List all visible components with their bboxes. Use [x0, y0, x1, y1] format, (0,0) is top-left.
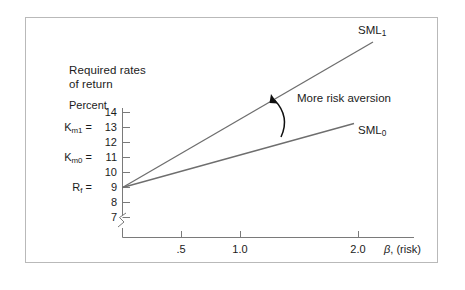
y-tick-label-14: 14 [95, 106, 117, 119]
sml0-label-subscript: 0 [382, 129, 387, 138]
sml0-label: SML0 [358, 124, 386, 138]
x-tick-label-0-5: .5 [166, 243, 196, 256]
chart-heading-line1: Required rates [69, 64, 146, 78]
sml0-label-base: SML [358, 124, 382, 136]
sml1-label-base: SML [358, 24, 382, 36]
sml1-line [123, 42, 374, 188]
km0-label: Km0 = [30, 151, 92, 164]
km0-symbol: K [64, 151, 71, 163]
chart-heading-line2: of return [69, 78, 113, 92]
figure-container: Required rates of return Percent 14 13 1… [0, 0, 465, 290]
rf-subscript: f [80, 186, 82, 195]
sml1-label: SML1 [358, 24, 386, 38]
risk-aversion-arrow [275, 100, 285, 137]
km0-subscript: m0 [72, 156, 83, 165]
y-tick-label-9: 9 [95, 181, 117, 194]
km1-equals: = [83, 121, 92, 133]
y-tick-label-12: 12 [95, 136, 117, 149]
y-tick-label-13: 13 [95, 121, 117, 134]
x-axis-label: β, (risk) [384, 243, 421, 256]
km1-subscript: m1 [72, 126, 83, 135]
km0-equals: = [83, 151, 92, 163]
km1-label: Km1 = [30, 121, 92, 134]
rf-label: Rf = [30, 181, 92, 194]
x-tick-marks [182, 231, 359, 238]
y-tick-label-11: 11 [95, 151, 117, 164]
y-tick-label-7: 7 [95, 211, 117, 224]
x-axis-label-rest: , (risk) [390, 243, 421, 255]
sml1-label-subscript: 1 [382, 29, 387, 38]
y-tick-marks [123, 113, 131, 218]
km1-symbol: K [64, 121, 71, 133]
sml0-line [123, 124, 355, 188]
x-tick-label-1-0: 1.0 [225, 243, 255, 256]
x-tick-label-2-0: 2.0 [343, 243, 373, 256]
y-tick-label-10: 10 [95, 166, 117, 179]
risk-aversion-annotation: More risk aversion [297, 92, 391, 106]
y-tick-label-8: 8 [95, 196, 117, 209]
rf-equals: = [83, 181, 92, 193]
